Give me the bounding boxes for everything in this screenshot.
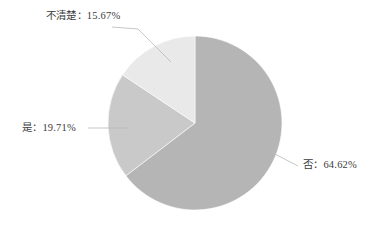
leader-line-no <box>271 152 298 166</box>
pie-slices <box>108 36 282 210</box>
pie-label-no: 否：64.62% <box>303 160 357 171</box>
pie-chart-figure: 不清楚：15.67% 是：19.71% 否：64.62% <box>0 0 381 233</box>
pie-label-yes: 是：19.71% <box>22 123 76 134</box>
pie-label-unclear: 不清楚：15.67% <box>46 11 120 22</box>
pie-chart-canvas <box>0 0 381 233</box>
